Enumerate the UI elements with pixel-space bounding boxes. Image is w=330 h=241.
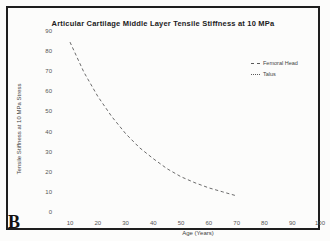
x-tick-label: 70 [227, 220, 247, 226]
chart-legend: Femoral Head Talus [251, 60, 298, 82]
y-tick-label: 20 [32, 169, 52, 175]
dotted-line-icon [251, 74, 260, 75]
figure-scan-page: Articular Cartilage Middle Layer Tensile… [0, 0, 330, 241]
legend-label: Talus [263, 71, 276, 77]
x-tick-label: 90 [282, 220, 302, 226]
y-tick-label: 90 [32, 28, 52, 34]
y-tick-label: 60 [32, 88, 52, 94]
y-tick-label: 80 [32, 48, 52, 54]
y-tick-label: 50 [32, 108, 52, 114]
x-tick-label: 40 [143, 220, 163, 226]
x-tick-label: 50 [171, 220, 191, 226]
chart-title: Articular Cartilage Middle Layer Tensile… [8, 19, 318, 28]
dashed-line-icon [251, 63, 260, 64]
chart-panel: Articular Cartilage Middle Layer Tensile… [6, 6, 320, 230]
y-tick-label: 0 [32, 209, 52, 215]
x-tick-label: 80 [254, 220, 274, 226]
panel-letter-label: B [8, 213, 20, 231]
x-axis-label: Age (Years) [138, 230, 258, 236]
x-tick-label: 100 [310, 220, 330, 226]
y-tick-label: 70 [32, 68, 52, 74]
legend-entry-femoral-head: Femoral Head [251, 60, 298, 66]
legend-entry-talus: Talus [251, 71, 298, 77]
x-tick-label: 10 [60, 220, 80, 226]
y-tick-label: 40 [32, 129, 52, 135]
y-tick-label: 30 [32, 149, 52, 155]
x-tick-label: 20 [88, 220, 108, 226]
x-tick-label: 60 [199, 220, 219, 226]
legend-label: Femoral Head [263, 60, 298, 66]
y-tick-label: 10 [32, 189, 52, 195]
femoral-head-curve [70, 42, 237, 196]
y-axis-label: Tensile Stiffness at 10 MPa Stress [16, 64, 26, 194]
plot-area [8, 8, 322, 232]
x-tick-label: 30 [116, 220, 136, 226]
